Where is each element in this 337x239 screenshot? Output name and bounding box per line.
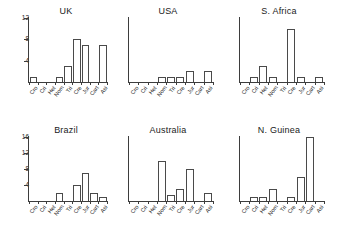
bar [204, 193, 212, 201]
bar [82, 45, 90, 82]
x-axis-label-slot: Cart [194, 83, 203, 117]
x-axis-tick-label: Asi [99, 204, 109, 214]
x-axis-tick-mark [277, 201, 278, 204]
bar-series [240, 137, 324, 201]
x-axis-tick-mark [81, 82, 82, 85]
bar [306, 137, 314, 201]
bar-series [129, 18, 213, 82]
x-axis-label-slot: Het [259, 202, 268, 236]
x-axis-label-slot: Cri [38, 202, 47, 236]
bar-slot [64, 18, 73, 82]
bar-slot [176, 137, 185, 201]
x-axis-tick-mark [324, 82, 325, 85]
bar [204, 71, 212, 82]
bar-slot [166, 137, 175, 201]
x-axis-tick-mark [55, 201, 56, 204]
x-axis-tick-mark [90, 201, 91, 204]
chart-panel-s-africa: S. AfricaCroCriHetNomTriCreJurCartAsi [224, 0, 334, 119]
x-axis-tick-mark [157, 201, 158, 204]
x-axis-tick-mark [315, 201, 316, 204]
bar-slot [185, 137, 194, 201]
x-axis-label-slot: Cri [138, 202, 147, 236]
bar-slot [55, 137, 64, 201]
bar-slot [277, 18, 286, 82]
x-axis-label-slot: Asi [204, 83, 213, 117]
plot-area [129, 137, 213, 201]
x-axis-tick-mark [204, 201, 205, 204]
x-axis-tick-mark [305, 201, 306, 204]
x-axis-tick-mark [249, 82, 250, 85]
chart-panel-uk: UK4812CroCriHetNomTriCreJurCartAsi [2, 0, 112, 119]
x-axis-label-slot: Het [148, 83, 157, 117]
x-axis-tick-mark [259, 201, 260, 204]
x-axis-tick-mark [72, 201, 73, 204]
bar-slot [90, 18, 99, 82]
x-axis-tick-mark [81, 201, 82, 204]
x-axis-label-slot: Cro [240, 83, 249, 117]
plot-area [29, 18, 107, 82]
bar [259, 66, 267, 82]
chart-panel-usa: USACroCriHetNomTriCreJurCartAsi [113, 0, 223, 119]
x-axis-tick-mark [259, 82, 260, 85]
bar [250, 197, 258, 201]
bar-series [240, 18, 324, 82]
bar [269, 189, 277, 201]
x-axis-label-slot: Nom [268, 83, 277, 117]
bar-slot [204, 137, 213, 201]
x-axis-tick-mark [185, 201, 186, 204]
bar-slot [166, 18, 175, 82]
bar-slot [259, 18, 268, 82]
x-axis-label-slot: Jur [81, 83, 90, 117]
bar-slot [157, 18, 166, 82]
bar-slot [249, 18, 258, 82]
x-axis-label-slot: Tri [64, 83, 73, 117]
x-axis-label-slot: Tri [277, 202, 286, 236]
x-axis-tick-mark [72, 82, 73, 85]
x-axis-tick-mark [166, 201, 167, 204]
bar-series [29, 137, 107, 201]
bar-slot [277, 137, 286, 201]
bar [259, 197, 267, 201]
x-axis-label-slot: Tri [64, 202, 73, 236]
chart-panel-n-guinea: N. GuineaCroCriHetNomTriCreJurCartAsi [224, 119, 334, 238]
x-axis-label-slot: Cro [240, 202, 249, 236]
x-axis-tick-mark [138, 82, 139, 85]
x-axis-tick-mark [176, 201, 177, 204]
bar-slot [138, 18, 147, 82]
x-axis-label-slot: Cre [72, 83, 81, 117]
x-axis-label-slot: Cre [176, 202, 185, 236]
x-axis-label-slot: Cri [138, 83, 147, 117]
bar-slot [268, 18, 277, 82]
bar-slot [46, 18, 55, 82]
bar [73, 185, 81, 201]
bar-slot [81, 137, 90, 201]
x-axis-tick-mark [107, 82, 108, 85]
x-axis-labels: CroCriHetNomTriCreJurCartAsi [29, 202, 107, 236]
bar-slot [296, 137, 305, 201]
bar-slot [305, 18, 314, 82]
x-axis-label-slot: Jur [185, 83, 194, 117]
bar-slot [287, 137, 296, 201]
bar [64, 66, 72, 82]
bar [158, 77, 166, 82]
bar [176, 189, 184, 201]
bar [269, 77, 277, 82]
bar-slot [204, 18, 213, 82]
bar [315, 77, 323, 82]
x-axis-labels: CroCriHetNomTriCreJurCartAsi [129, 202, 213, 236]
x-axis-label-slot: Nom [157, 202, 166, 236]
bar [167, 195, 175, 201]
x-axis-label-slot: Jur [81, 202, 90, 236]
x-axis-tick-mark [148, 201, 149, 204]
plot-area [240, 137, 324, 201]
x-axis-labels: CroCriHetNomTriCreJurCartAsi [129, 83, 213, 117]
x-axis-label-slot: Asi [315, 202, 324, 236]
x-axis-label-slot: Tri [166, 83, 175, 117]
x-axis-label-slot: Het [46, 202, 55, 236]
x-axis-tick-mark [287, 201, 288, 204]
x-axis-tick-mark [213, 201, 214, 204]
bar-slot [315, 18, 324, 82]
x-axis-tick-mark [240, 82, 241, 85]
bar [82, 173, 90, 201]
plot-area [240, 18, 324, 82]
